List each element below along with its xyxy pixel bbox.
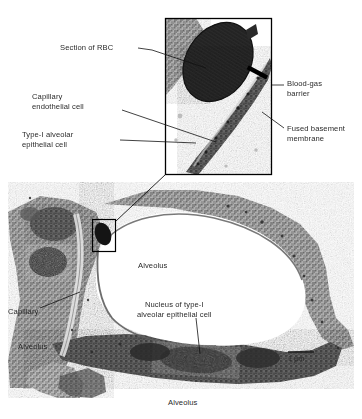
inset-micrograph	[165, 9, 272, 175]
source-region-border	[93, 220, 116, 252]
scale-bar-label: 1 µm	[288, 354, 304, 363]
label-section-of-rbc: Section of RBC	[60, 43, 113, 53]
figure-electron-micrograph: Section of RBC Capillary endothelial cel…	[0, 0, 362, 419]
inset-border	[166, 19, 272, 175]
leader-capillary	[40, 292, 80, 308]
leader-section-of-rbc	[138, 48, 206, 68]
label-alveolus-left: Alveolus	[18, 342, 48, 352]
label-capillary-endothelial-cell: Capillary endothelial cell	[32, 92, 84, 111]
leader-nucleus-type-i	[196, 318, 200, 354]
label-capillary: Capillary	[8, 307, 38, 317]
rbc-in-source-region	[92, 221, 114, 248]
capillary-wall-band	[186, 58, 272, 175]
blood-gas-barrier-marker	[247, 65, 268, 79]
alveolar-septum-tissue	[8, 190, 354, 398]
inset-connector-line	[116, 175, 166, 222]
rbc-section	[169, 9, 268, 114]
leader-fused-basement-membrane	[262, 112, 284, 128]
leader-type-i-epithelial-cell	[120, 140, 196, 143]
label-alveolus-lumen: Alveolus	[138, 261, 168, 271]
label-nucleus-type-i: Nucleus of type-I alveolar epithelial ce…	[137, 300, 212, 319]
label-fused-basement-membrane: Fused basement membrane	[287, 124, 345, 143]
type-i-nucleus	[130, 343, 280, 375]
label-type-i-alveolar-epithelial-cell: Type-I alveolar epithelial cell	[22, 130, 73, 149]
main-micrograph	[8, 190, 354, 398]
label-blood-gas-barrier: Blood-gas barrier	[287, 79, 322, 98]
micrograph-canvas	[0, 0, 362, 419]
left-cell-bodies	[20, 207, 78, 277]
tissue-granules	[29, 197, 339, 354]
label-alveolus-bottom: Alveolus	[168, 398, 198, 408]
leader-capillary-endothelial-cell	[122, 110, 216, 142]
alveolar-lumen	[96, 212, 305, 346]
